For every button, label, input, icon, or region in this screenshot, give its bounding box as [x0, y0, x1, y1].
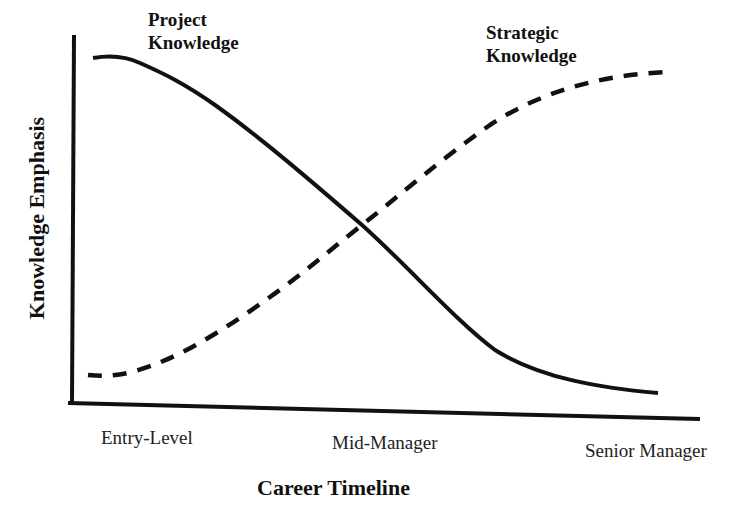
- strategic-label-line2: Knowledge: [486, 44, 577, 67]
- strategic-knowledge-label: Strategic Knowledge: [486, 21, 577, 67]
- x-tick-mid-manager: Mid-Manager: [332, 432, 438, 454]
- project-label-line1: Project: [148, 8, 239, 31]
- x-tick-senior-manager: Senior Manager: [585, 440, 707, 462]
- project-knowledge-label: Project Knowledge: [148, 8, 239, 54]
- strategic-knowledge-line: [88, 72, 666, 376]
- x-axis: [68, 403, 700, 419]
- x-axis-title: Career Timeline: [257, 475, 410, 501]
- y-axis: [72, 35, 74, 404]
- x-tick-entry-level: Entry-Level: [101, 427, 193, 449]
- project-knowledge-line: [93, 56, 658, 393]
- project-label-line2: Knowledge: [148, 31, 239, 54]
- strategic-label-line1: Strategic: [486, 21, 577, 44]
- y-axis-title: Knowledge Emphasis: [24, 117, 50, 319]
